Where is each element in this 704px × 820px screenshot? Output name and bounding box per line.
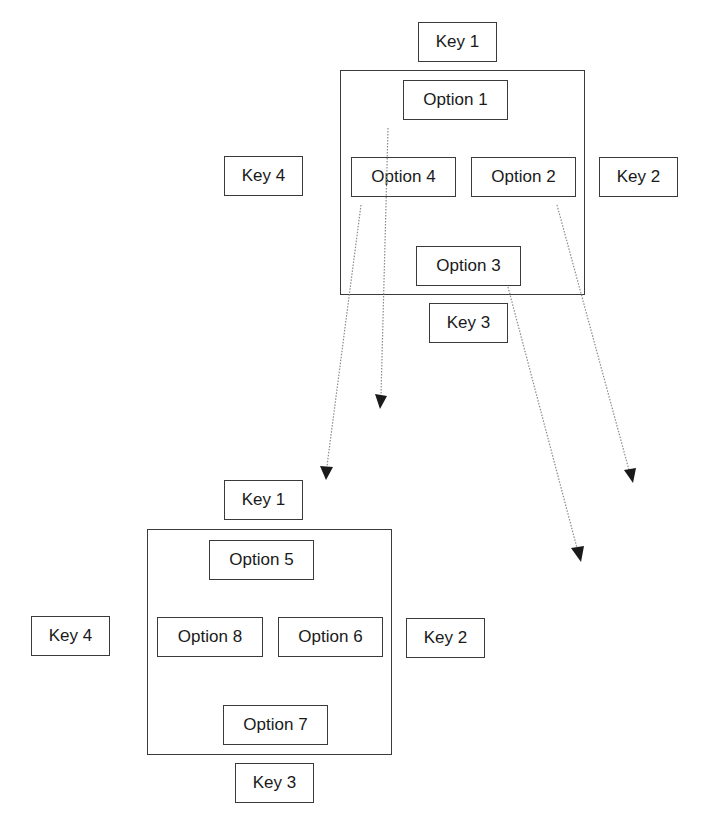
- arrow-from-option-2: [557, 205, 629, 470]
- arrow-from-option-3: [508, 287, 577, 548]
- arrow-from-option-4: [327, 205, 361, 466]
- arrow-head-icon: [375, 394, 387, 409]
- arrow-from-option-1: [381, 128, 388, 396]
- arrow-head-icon: [571, 546, 584, 562]
- arrow-head-icon: [320, 466, 333, 480]
- arrow-head-icon: [624, 468, 636, 483]
- dotted-arrows: [0, 0, 704, 820]
